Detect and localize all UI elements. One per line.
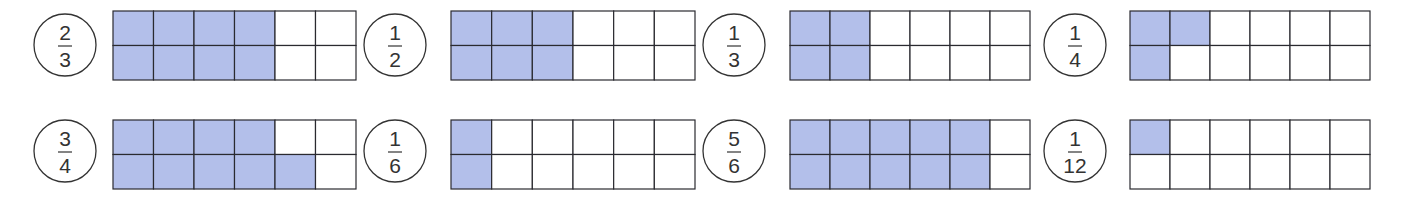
grid-cell-empty [573, 11, 614, 46]
grid-cell-shaded [451, 46, 492, 81]
fraction-grid [451, 11, 695, 80]
grid-cell-empty [614, 155, 655, 190]
grid-cell-empty [654, 120, 695, 155]
grid-cell-shaded [492, 11, 533, 46]
numerator: 1 [1069, 21, 1081, 44]
fraction-item: 16 [364, 120, 695, 189]
fraction-label: 14 [1044, 14, 1106, 76]
grid-cell-shaded [830, 11, 870, 46]
numerator: 2 [59, 21, 71, 44]
grid-cell-shaded [451, 155, 492, 190]
grid-cell-empty [614, 46, 655, 81]
grid-cell-shaded [154, 155, 195, 190]
grid-cell-empty [990, 155, 1030, 190]
fraction-item: 13 [703, 11, 1030, 80]
fraction-label: 16 [364, 120, 426, 182]
grid-cell-shaded [194, 46, 235, 81]
grid-cell-shaded [194, 120, 235, 155]
grid-cell-empty [1130, 155, 1170, 190]
fraction-grid [1130, 11, 1370, 80]
numerator: 5 [728, 127, 740, 150]
grid-cell-empty [1250, 11, 1290, 46]
fraction-label: 34 [34, 120, 96, 182]
grid-cell-shaded [532, 46, 573, 81]
grid-cell-shaded [790, 46, 830, 81]
grid-cell-shaded [113, 11, 154, 46]
grid-cell-empty [1170, 120, 1210, 155]
grid-cell-empty [910, 11, 950, 46]
grid-cell-empty [1330, 120, 1370, 155]
grid-cell-shaded [532, 11, 573, 46]
denominator: 12 [1063, 154, 1086, 177]
grid-cell-shaded [790, 155, 830, 190]
grid-cell-empty [1210, 120, 1250, 155]
grid-cell-empty [573, 155, 614, 190]
denominator: 4 [1069, 48, 1081, 71]
fraction-label: 13 [703, 14, 765, 76]
grid-cell-empty [1330, 155, 1370, 190]
grid-cell-empty [316, 155, 357, 190]
grid-cell-shaded [194, 11, 235, 46]
grid-cell-shaded [830, 155, 870, 190]
fraction-item: 112 [1044, 120, 1370, 189]
grid-cell-shaded [492, 46, 533, 81]
grid-cell-empty [654, 46, 695, 81]
grid-cell-empty [492, 120, 533, 155]
grid-cell-empty [1170, 46, 1210, 81]
grid-cell-empty [492, 155, 533, 190]
grid-cell-shaded [235, 46, 276, 81]
grid-cell-empty [1210, 11, 1250, 46]
grid-cell-shaded [235, 155, 276, 190]
grid-cell-empty [1210, 155, 1250, 190]
numerator: 1 [1069, 127, 1081, 150]
grid-cell-empty [950, 46, 990, 81]
grid-cell-shaded [154, 46, 195, 81]
grid-cell-empty [275, 11, 316, 46]
grid-cell-empty [1250, 46, 1290, 81]
grid-cell-empty [275, 120, 316, 155]
grid-cell-empty [910, 46, 950, 81]
grid-cell-shaded [451, 120, 492, 155]
fraction-label: 56 [703, 120, 765, 182]
grid-cell-shaded [194, 155, 235, 190]
grid-cell-shaded [1130, 46, 1170, 81]
grid-cell-empty [870, 46, 910, 81]
numerator: 3 [59, 127, 71, 150]
grid-cell-shaded [235, 11, 276, 46]
denominator: 2 [389, 48, 401, 71]
grid-cell-shaded [790, 11, 830, 46]
fraction-grid [451, 120, 695, 189]
grid-cell-empty [275, 46, 316, 81]
fraction-item: 12 [364, 11, 695, 80]
grid-cell-shaded [113, 46, 154, 81]
grid-cell-shaded [154, 11, 195, 46]
denominator: 3 [728, 48, 740, 71]
denominator: 6 [389, 154, 401, 177]
grid-cell-shaded [1130, 120, 1170, 155]
numerator: 1 [728, 21, 740, 44]
numerator: 1 [389, 127, 401, 150]
grid-cell-empty [870, 11, 910, 46]
grid-cell-empty [654, 11, 695, 46]
grid-cell-empty [990, 120, 1030, 155]
grid-cell-empty [1290, 46, 1330, 81]
grid-cell-empty [316, 120, 357, 155]
fraction-grid [113, 11, 356, 80]
grid-cell-empty [316, 46, 357, 81]
grid-cell-empty [654, 155, 695, 190]
grid-cell-shaded [154, 120, 195, 155]
grid-cell-empty [1330, 46, 1370, 81]
grid-cell-empty [950, 11, 990, 46]
grid-cell-shaded [830, 46, 870, 81]
grid-cell-shaded [1130, 11, 1170, 46]
grid-cell-shaded [910, 155, 950, 190]
fraction-grid-diagram: 23121314341656112 [0, 0, 1409, 220]
denominator: 4 [59, 154, 71, 177]
grid-cell-empty [532, 155, 573, 190]
grid-cell-empty [1290, 120, 1330, 155]
numerator: 1 [389, 21, 401, 44]
fraction-grid [790, 11, 1030, 80]
grid-cell-empty [316, 11, 357, 46]
grid-cell-shaded [790, 120, 830, 155]
grid-cell-shaded [1170, 11, 1210, 46]
